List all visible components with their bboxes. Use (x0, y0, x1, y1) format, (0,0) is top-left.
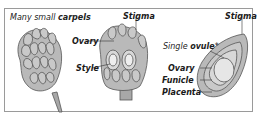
caption-text: Single (163, 42, 190, 51)
style-label: Style (76, 64, 99, 73)
ovary-label-middle: Ovary (72, 37, 99, 46)
placenta-label: Placenta (162, 88, 201, 97)
ovule-section-illustration (197, 16, 247, 97)
caption-bold-term: ovule (190, 42, 215, 51)
caption-text: Many small (10, 13, 58, 22)
many-carpels-illustration (18, 28, 62, 112)
carpel-section-illustration (86, 17, 148, 100)
stigma-label-right: Stigma (225, 12, 257, 21)
funicle-label: Funicle (162, 76, 194, 85)
many-carpels-caption: Many small carpels (10, 13, 91, 22)
ovary-label-right: Ovary (168, 64, 195, 73)
stigma-label-middle: Stigma (123, 12, 155, 21)
caption-bold-term: carpels (58, 13, 91, 22)
single-ovule-caption: Single ovule* (163, 42, 219, 51)
footnote-asterisk: * (215, 42, 219, 51)
